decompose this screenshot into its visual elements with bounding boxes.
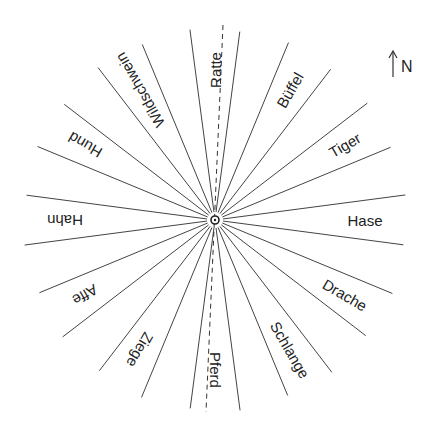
sector-divider-line bbox=[39, 223, 207, 293]
sector-divider-line bbox=[63, 225, 209, 337]
sector-divider-line bbox=[220, 69, 331, 213]
sector-label-hund: Hund bbox=[65, 129, 105, 162]
sector-divider-line bbox=[64, 104, 208, 215]
sector-label-ziege: Ziege bbox=[123, 329, 156, 370]
sector-divider-line bbox=[98, 68, 210, 214]
north-label: N bbox=[401, 58, 413, 75]
sector-divider-line bbox=[142, 227, 212, 397]
sector-label-ratte: Ratte bbox=[207, 52, 224, 88]
sector-divider-line bbox=[222, 147, 390, 217]
sector-divider-line bbox=[38, 147, 208, 217]
north-indicator: N bbox=[389, 51, 413, 77]
zodiac-compass-diagram: RatteBüffelTigerHaseDracheSchlangePferdZ… bbox=[0, 0, 433, 438]
sector-divider-line bbox=[220, 226, 332, 372]
sector-label-schlange: Schlange bbox=[267, 319, 313, 382]
sector-label-büffel: Büffel bbox=[273, 69, 307, 110]
sector-label-hahn: Hahn bbox=[47, 212, 83, 229]
sector-divider-line bbox=[218, 227, 288, 395]
sector-divider-line bbox=[221, 225, 365, 336]
sector-divider-line bbox=[222, 223, 392, 293]
sector-label-affe: Affe bbox=[69, 281, 100, 309]
sector-label-pferd: Pferd bbox=[207, 352, 224, 388]
sector-label-tiger: Tiger bbox=[326, 129, 364, 161]
center-dot bbox=[214, 219, 216, 221]
sector-label-wildschwein: Wildschwein bbox=[112, 50, 168, 131]
sector-divider-line bbox=[221, 103, 367, 215]
sector-divider-line bbox=[218, 43, 288, 213]
sector-divider-line bbox=[99, 226, 210, 370]
sector-label-hase: Hase bbox=[347, 212, 382, 229]
